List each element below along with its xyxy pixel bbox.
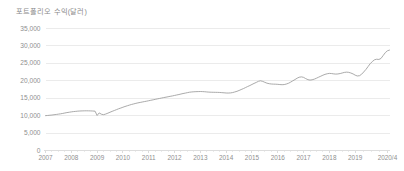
series-line	[46, 50, 390, 116]
x-axis-tick-label: 2011	[142, 154, 156, 161]
data-series-group	[46, 50, 390, 116]
x-axis-tick-label: 2017	[296, 154, 311, 161]
y-axis-tick-label: 20,000	[20, 77, 41, 84]
x-axis-tick-label: 2019	[348, 154, 363, 161]
y-axis-tick-label: 10,000	[20, 112, 41, 119]
y-axis-tick-label: 5,000	[24, 129, 41, 136]
gridlines-group	[46, 29, 391, 134]
y-axis-tick-label: 35,000	[20, 25, 41, 32]
y-axis-tick-label: 0	[37, 147, 41, 154]
x-axis-tick-label: 2015	[245, 154, 260, 161]
x-axis-tick-label: 2007	[38, 154, 53, 161]
x-axis-tick-label: 2009	[90, 154, 105, 161]
y-axis-tick-label: 15,000	[20, 94, 41, 101]
x-axis-tick-label: 2008	[64, 154, 79, 161]
line-chart-plot: 35,00030,00025,00020,00015,00010,0005,00…	[0, 0, 404, 171]
chart-container: 포트폴리오 수익(달러) 35,00030,00025,00020,00015,…	[0, 0, 404, 171]
x-axis-tick-label: 2010	[116, 154, 131, 161]
x-axis-tick-label: 2018	[322, 154, 337, 161]
y-axis-tick-label: 30,000	[20, 42, 41, 49]
x-axis-tick-label: 2012	[167, 154, 182, 161]
x-axis-tick-labels: 2007200820092010201120122013201420152016…	[38, 154, 397, 161]
x-axis-tick-label: 2020/4	[378, 154, 398, 161]
x-axis-tick-label: 2013	[193, 154, 208, 161]
y-axis-tick-labels: 35,00030,00025,00020,00015,00010,0005,00…	[20, 25, 41, 154]
x-axis-tick-label: 2014	[219, 154, 234, 161]
x-axis-ticks	[44, 151, 391, 154]
x-axis-tick-label: 2016	[271, 154, 286, 161]
y-axis-tick-label: 25,000	[20, 59, 41, 66]
